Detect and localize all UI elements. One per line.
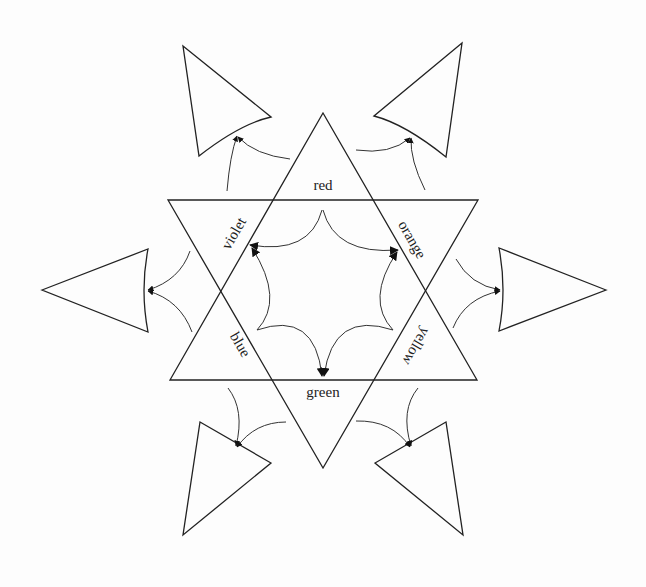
kite-top-left — [183, 46, 271, 156]
label-blue: blue — [227, 329, 254, 360]
label-yellow: yellow — [399, 325, 433, 369]
kite-right — [499, 248, 606, 331]
label-orange: orange — [395, 218, 429, 262]
kite-bottom-left — [183, 422, 271, 535]
kite-top-right — [374, 43, 462, 157]
inner-arrow-cycle — [250, 210, 398, 376]
color-wheel-hexagram-diagram: red green violet orange blue yellow — [0, 0, 646, 587]
label-green: green — [306, 384, 340, 400]
label-red: red — [313, 177, 333, 193]
label-violet: violet — [218, 214, 249, 252]
kite-bottom-right — [375, 422, 463, 535]
kite-left — [42, 249, 148, 332]
upward-triangle — [170, 113, 477, 380]
outer-kites — [42, 43, 606, 535]
